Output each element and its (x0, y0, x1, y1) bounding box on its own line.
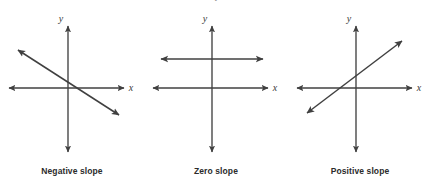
negative-slope-diagram: y x (0, 0, 144, 165)
x-axis-label: x (128, 82, 134, 93)
zero-slope-diagram: y x (144, 0, 288, 165)
x-axis-label: x (416, 82, 422, 93)
x-axis-label: x (272, 82, 278, 93)
positive-slope-line (307, 41, 402, 113)
y-axis-label: y (346, 13, 352, 24)
y-axis-label: y (202, 13, 208, 24)
caption-negative-slope: Negative slope (0, 166, 144, 177)
panel-zero-slope: y x Zero slope (144, 0, 288, 196)
caption-positive-slope: Positive slope (288, 166, 432, 177)
slope-types-figure: y x Negative slope y x Zero slope (0, 0, 432, 196)
panel-negative-slope: y x Negative slope (0, 0, 144, 196)
panel-positive-slope: y x Positive slope (288, 0, 432, 196)
positive-slope-diagram: y x (288, 0, 432, 165)
y-axis-label: y (58, 13, 64, 24)
caption-zero-slope: Zero slope (144, 166, 288, 177)
